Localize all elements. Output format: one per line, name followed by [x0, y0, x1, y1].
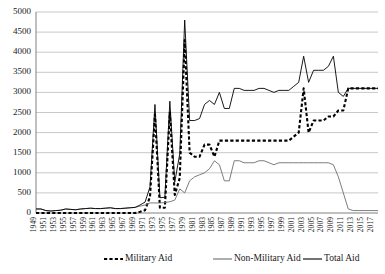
y-axis-tick-labels: 0500100015002000250030003500400045005000: [13, 6, 32, 217]
x-axis-label: 1989: [227, 217, 236, 232]
y-axis-label: 500: [18, 187, 32, 197]
x-axis-label: 1949: [29, 217, 38, 232]
x-axis-label: 2001: [287, 217, 296, 232]
x-axis-label: 1969: [128, 217, 137, 232]
x-axis-label: 2013: [346, 217, 355, 232]
x-axis-label: 1963: [98, 217, 107, 232]
chart-legend: Military AidNon-Military AidTotal Aid: [104, 253, 360, 263]
aid-line-chart: 0500100015002000250030003500400045005000…: [0, 0, 385, 274]
chart-container: 0500100015002000250030003500400045005000…: [0, 0, 385, 274]
x-axis-label: 2011: [336, 217, 345, 232]
y-axis-label: 5000: [13, 6, 32, 16]
series-line-total-aid: [36, 20, 378, 211]
y-axis-label: 1000: [13, 167, 32, 177]
x-axis-label: 1971: [138, 217, 147, 232]
x-axis-label: 1953: [49, 217, 58, 232]
x-axis-label: 1991: [237, 217, 246, 232]
y-axis-label: 3000: [13, 86, 32, 96]
y-axis-label: 4000: [13, 46, 32, 56]
x-axis-label: 1961: [88, 217, 97, 232]
y-axis-label: 0: [27, 207, 32, 217]
x-axis-label: 2015: [356, 217, 365, 232]
x-axis-label: 1973: [148, 217, 157, 232]
x-axis-label: 2005: [307, 217, 316, 232]
y-axis-label: 1500: [13, 147, 32, 157]
x-axis-label: 1955: [59, 217, 68, 232]
x-axis-label: 2017: [366, 217, 375, 232]
x-axis-label: 1975: [158, 217, 167, 232]
x-axis-label: 1965: [108, 217, 117, 232]
x-axis-label: 2009: [326, 217, 335, 232]
x-axis-label: 1997: [267, 217, 276, 232]
x-axis-label: 1987: [217, 217, 226, 232]
y-axis-label: 2000: [13, 127, 32, 137]
x-axis-label: 1957: [69, 217, 78, 232]
x-axis-label: 1951: [39, 217, 48, 232]
legend-label: Total Aid: [324, 253, 360, 263]
y-axis-label: 2500: [13, 107, 32, 117]
data-series: [36, 20, 378, 213]
y-axis-label: 3500: [13, 66, 32, 76]
legend-label: Military Aid: [125, 253, 172, 263]
series-line-non-military-aid: [36, 161, 378, 211]
x-axis-tick-labels: 1949195119531955195719591961196319651967…: [29, 217, 375, 232]
x-axis-label: 1983: [198, 217, 207, 232]
x-axis-label: 1967: [118, 217, 127, 232]
x-axis-label: 1995: [257, 217, 266, 232]
x-axis-label: 1981: [188, 217, 197, 232]
x-axis-label: 1959: [79, 217, 88, 232]
x-axis-label: 2003: [297, 217, 306, 232]
x-axis-label: 1985: [207, 217, 216, 232]
y-axis-label: 4500: [13, 26, 32, 36]
x-axis-label: 1977: [168, 217, 177, 232]
x-axis-label: 2007: [316, 217, 325, 232]
legend-label: Non-Military Aid: [234, 253, 301, 263]
series-line-military-aid: [36, 40, 378, 213]
x-axis-label: 1993: [247, 217, 256, 232]
x-axis-label: 1979: [178, 217, 187, 232]
x-axis-label: 1999: [277, 217, 286, 232]
